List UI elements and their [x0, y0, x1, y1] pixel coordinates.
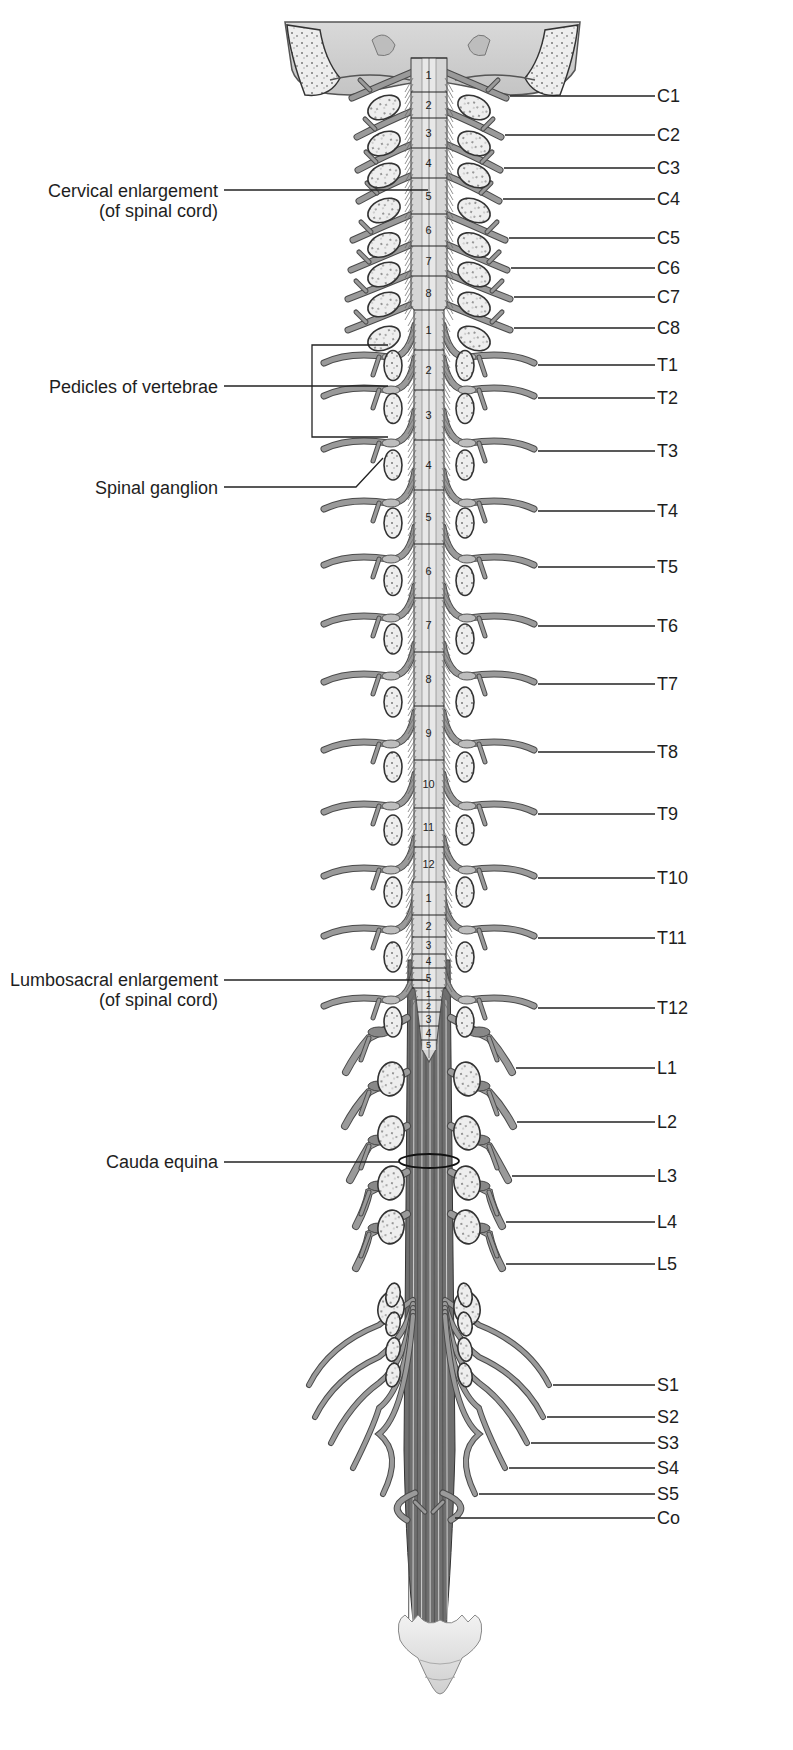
label-cervical-enlargement-line2: (of spinal cord) — [48, 201, 218, 221]
cord-segment-thoracic-8: 8 — [425, 673, 431, 685]
spinal-cord: 123456781234567891011121234512345 — [405, 58, 453, 1062]
label-lumbosacral-enlargement-line1: Lumbosacral enlargement — [10, 970, 218, 990]
label-lumbosacral-enlargement: Lumbosacral enlargement (of spinal cord) — [10, 970, 218, 1010]
cord-segment-sacral-2: 2 — [426, 1001, 431, 1011]
nerve-label-t6: T6 — [657, 616, 678, 636]
cord-segment-cervical-6: 6 — [425, 224, 431, 236]
nerve-label-c4: C4 — [657, 189, 680, 209]
nerve-label-t7: T7 — [657, 674, 678, 694]
nerve-label-l1: L1 — [657, 1058, 677, 1078]
cord-segment-lumbar-4: 4 — [426, 956, 432, 967]
cord-segment-thoracic-5: 5 — [425, 511, 431, 523]
cord-segment-lumbar-5: 5 — [426, 973, 432, 984]
label-lumbosacral-enlargement-line2: (of spinal cord) — [10, 990, 218, 1010]
cord-segment-thoracic-12: 12 — [422, 858, 434, 870]
nerve-label-s3: S3 — [657, 1433, 679, 1453]
nerve-label-c6: C6 — [657, 258, 680, 278]
nerve-label-c8: C8 — [657, 318, 680, 338]
nerve-label-t2: T2 — [657, 388, 678, 408]
cord-segment-thoracic-11: 11 — [423, 821, 434, 833]
label-pedicles-of-vertebrae: Pedicles of vertebrae — [49, 377, 218, 397]
nerve-label-t1: T1 — [657, 355, 678, 375]
nerve-label-t9: T9 — [657, 804, 678, 824]
cord-segment-thoracic-7: 7 — [425, 619, 431, 631]
nerve-label-co: Co — [657, 1508, 680, 1528]
nerve-label-c5: C5 — [657, 228, 680, 248]
label-cervical-enlargement: Cervical enlargement (of spinal cord) — [48, 181, 218, 221]
cord-segment-thoracic-1: 1 — [425, 324, 431, 336]
cord-segment-cervical-5: 5 — [425, 190, 431, 202]
cord-segment-thoracic-2: 2 — [425, 364, 431, 376]
nerve-label-t12: T12 — [657, 998, 688, 1018]
nerve-label-l2: L2 — [657, 1112, 677, 1132]
label-pedicles-text: Pedicles of vertebrae — [49, 377, 218, 397]
cord-segment-cervical-2: 2 — [425, 99, 431, 111]
cord-segment-sacral-5: 5 — [426, 1040, 431, 1050]
label-cauda-equina: Cauda equina — [106, 1152, 218, 1172]
nerve-label-c2: C2 — [657, 125, 680, 145]
cord-segment-thoracic-10: 10 — [422, 778, 434, 790]
cord-segment-thoracic-6: 6 — [425, 565, 431, 577]
cord-segment-thoracic-9: 9 — [425, 727, 431, 739]
nerve-label-s5: S5 — [657, 1484, 679, 1504]
label-spinal-ganglion: Spinal ganglion — [95, 478, 218, 498]
cord-segment-thoracic-3: 3 — [425, 409, 431, 421]
cord-segment-thoracic-4: 4 — [425, 459, 431, 471]
cord-segment-sacral-3: 3 — [426, 1014, 432, 1025]
cord-segment-cervical-4: 4 — [425, 157, 431, 169]
nerve-label-t8: T8 — [657, 742, 678, 762]
cord-segment-cervical-3: 3 — [425, 127, 431, 139]
nerve-label-t5: T5 — [657, 557, 678, 577]
nerve-label-l4: L4 — [657, 1212, 677, 1232]
nerve-label-t10: T10 — [657, 868, 688, 888]
nerve-label-s1: S1 — [657, 1375, 679, 1395]
nerve-label-c1: C1 — [657, 86, 680, 106]
cord-segment-lumbar-3: 3 — [426, 940, 432, 951]
nerve-label-s2: S2 — [657, 1407, 679, 1427]
cord-segment-cervical-7: 7 — [425, 255, 431, 267]
nerve-label-s4: S4 — [657, 1458, 679, 1478]
cord-segment-cervical-1: 1 — [425, 69, 431, 81]
nerve-label-t11: T11 — [657, 928, 687, 948]
nerve-label-t4: T4 — [657, 501, 678, 521]
cord-segment-lumbar-2: 2 — [425, 920, 431, 932]
nerve-label-l5: L5 — [657, 1254, 677, 1274]
nerve-label-l3: L3 — [657, 1166, 677, 1186]
cord-segment-sacral-1: 1 — [426, 989, 431, 999]
cord-segment-lumbar-1: 1 — [425, 892, 431, 904]
nerve-label-c7: C7 — [657, 287, 680, 307]
nerve-label-t3: T3 — [657, 441, 678, 461]
nerve-label-c3: C3 — [657, 158, 680, 178]
cord-segment-sacral-4: 4 — [426, 1028, 432, 1039]
coccyx-bone — [398, 1615, 481, 1694]
label-cervical-enlargement-line1: Cervical enlargement — [48, 181, 218, 201]
label-cauda-equina-text: Cauda equina — [106, 1152, 218, 1172]
cord-segment-cervical-8: 8 — [425, 287, 431, 299]
label-spinal-ganglion-text: Spinal ganglion — [95, 478, 218, 498]
